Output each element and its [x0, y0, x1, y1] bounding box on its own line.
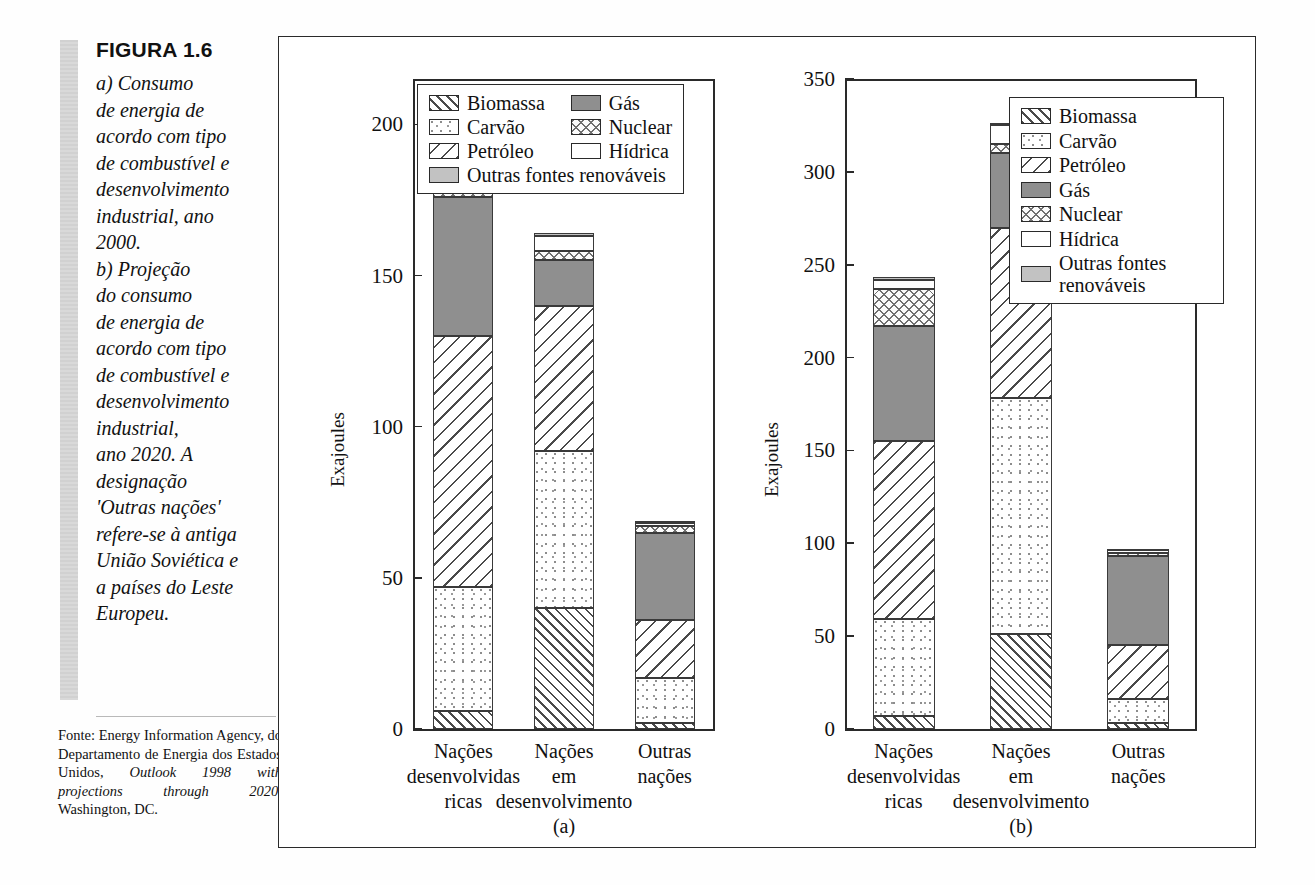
bar-segment[interactable] — [873, 619, 935, 716]
y-axis-tick-label: 100 — [347, 414, 403, 439]
legend-item[interactable]: Petróleo — [1021, 154, 1212, 176]
bar-segment[interactable] — [635, 526, 695, 532]
bar-segment[interactable] — [1107, 549, 1169, 551]
legend-item[interactable]: Carvão — [1021, 130, 1212, 152]
legend-swatch-nuclear-icon — [1021, 206, 1051, 222]
bar-segment[interactable] — [534, 260, 594, 305]
y-axis-tick-label: 50 — [779, 624, 835, 649]
legend-item-label: Outras fontes renováveis — [1059, 252, 1212, 296]
bar-segment[interactable] — [1107, 556, 1169, 645]
panel-letter-a: (a) — [553, 815, 575, 838]
legend-item[interactable]: Hídrica — [571, 140, 672, 162]
bar-segment[interactable] — [990, 634, 1052, 729]
y-axis-tick — [845, 542, 854, 544]
caption-divider — [96, 716, 276, 717]
bar-segment[interactable] — [433, 711, 493, 729]
figure-page: FIGURA 1.6 a) Consumo de energia de acor… — [0, 0, 1315, 885]
bar-segment[interactable] — [1107, 645, 1169, 699]
legend-item[interactable]: Outras fontes renováveis — [1021, 252, 1212, 296]
figure-source: Fonte: Energy Information Agency, do Dep… — [58, 726, 282, 819]
decorative-gray-bar — [60, 40, 78, 700]
panel-letter-b: (b) — [1009, 815, 1032, 838]
bar-segment[interactable] — [873, 326, 935, 441]
legend-item[interactable]: Biomassa — [429, 92, 545, 114]
bar-stack[interactable] — [873, 79, 935, 729]
bar-segment[interactable] — [635, 523, 695, 526]
bar-segment[interactable] — [873, 716, 935, 729]
y-axis-tick — [845, 357, 854, 359]
x-axis-category-label: Nações em desenvolvimento — [953, 739, 1090, 814]
bar-segment[interactable] — [433, 336, 493, 587]
bar-segment[interactable] — [433, 587, 493, 711]
y-axis-tick-label: 200 — [347, 112, 403, 137]
legend-item-label: Petróleo — [1059, 154, 1126, 176]
bar-segment[interactable] — [635, 678, 695, 723]
legend-swatch-nuclear-icon — [571, 119, 601, 135]
bar-segment[interactable] — [534, 451, 594, 608]
legend-item-label: Gás — [1059, 179, 1090, 201]
y-axis-tick-label: 250 — [779, 252, 835, 277]
bar-segment[interactable] — [1107, 699, 1169, 723]
legend-swatch-hidrica-icon — [571, 143, 601, 159]
legend-item[interactable]: Hídrica — [1021, 228, 1212, 250]
y-axis-tick — [845, 264, 854, 266]
figure-frame: Exajoules 050100150200Nações desenvolvid… — [278, 36, 1256, 848]
bar-segment[interactable] — [990, 398, 1052, 634]
bar-segment[interactable] — [635, 533, 695, 621]
bar-segment[interactable] — [1107, 553, 1169, 557]
y-axis-tick-label: 350 — [779, 67, 835, 92]
bar-segment[interactable] — [534, 306, 594, 451]
x-axis-category-label: Outras nações — [637, 739, 691, 789]
legend-item[interactable]: Biomassa — [1021, 105, 1212, 127]
bar-segment[interactable] — [433, 197, 493, 336]
y-axis-tick — [845, 78, 854, 80]
legend-item-label: Hídrica — [1059, 228, 1119, 250]
y-axis-tick — [845, 450, 854, 452]
bar-segment[interactable] — [873, 277, 935, 279]
y-axis-tick-label: 0 — [347, 717, 403, 742]
bar-segment[interactable] — [534, 233, 594, 236]
y-axis-line — [845, 79, 847, 729]
bar-segment[interactable] — [1107, 723, 1169, 729]
legend-item[interactable]: Nuclear — [1021, 203, 1212, 225]
y-axis-tick — [413, 275, 422, 277]
bar-segment[interactable] — [1107, 550, 1169, 552]
legend-item-label: Gás — [609, 92, 640, 114]
legend-item[interactable]: Nuclear — [571, 116, 672, 138]
bar-segment[interactable] — [534, 608, 594, 729]
bar-segment[interactable] — [635, 620, 695, 677]
legend-item[interactable]: Gás — [571, 92, 672, 114]
y-axis-tick-label: 0 — [779, 717, 835, 742]
y-axis-tick — [413, 426, 422, 428]
chart-legend-b: BiomassaCarvãoPetróleoGásNuclearHídricaO… — [1009, 97, 1224, 304]
bar-segment[interactable] — [534, 236, 594, 251]
legend-item-label: Nuclear — [1059, 203, 1122, 225]
bar-segment[interactable] — [635, 723, 695, 729]
bar-segment[interactable] — [534, 251, 594, 260]
bar-segment[interactable] — [873, 289, 935, 326]
y-axis-tick-label: 50 — [347, 565, 403, 590]
legend-swatch-gas-icon — [1021, 182, 1051, 198]
x-axis-line — [413, 729, 715, 731]
bar-segment[interactable] — [873, 280, 935, 289]
y-axis-tick-label: 150 — [779, 438, 835, 463]
chart-legend-a: BiomassaGásCarvãoNuclearPetróleoHídricaO… — [417, 84, 684, 194]
bar-segment[interactable] — [635, 521, 695, 523]
y-axis-label-a: Exajoules — [327, 412, 349, 487]
legend-item[interactable]: Outras fontes renováveis — [429, 164, 672, 186]
caption-column: FIGURA 1.6 a) Consumo de energia de acor… — [60, 32, 275, 732]
legend-item[interactable]: Carvão — [429, 116, 545, 138]
bar-segment[interactable] — [873, 441, 935, 619]
legend-swatch-carvao-icon — [1021, 133, 1051, 149]
legend-swatch-petroleo-icon — [1021, 157, 1051, 173]
x-axis-category-label: Nações desenvolvidas ricas — [847, 739, 960, 814]
legend-swatch-biomassa-icon — [429, 95, 459, 111]
legend-swatch-outras-icon — [1021, 266, 1051, 282]
chart-panel-a: Exajoules 050100150200Nações desenvolvid… — [279, 37, 749, 847]
right-axis-line — [713, 79, 715, 729]
y-axis-tick — [845, 728, 854, 730]
y-axis-tick-label: 200 — [779, 345, 835, 370]
legend-item[interactable]: Gás — [1021, 179, 1212, 201]
y-axis-tick — [413, 577, 422, 579]
legend-item[interactable]: Petróleo — [429, 140, 545, 162]
